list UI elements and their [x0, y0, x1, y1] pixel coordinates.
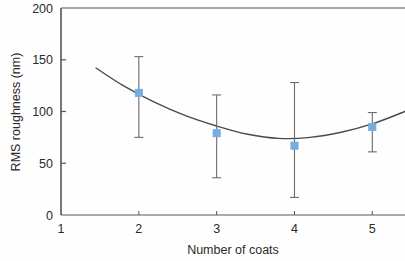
- y-tick-label: 100: [32, 105, 53, 119]
- x-axis-label: Number of coats: [187, 243, 279, 257]
- error-bars: [134, 57, 376, 198]
- fit-curve: [96, 68, 405, 139]
- chart-figure: 050100150200 12345 RMS roughness (nm) Nu…: [0, 0, 405, 261]
- x-tick-label: 1: [58, 222, 65, 236]
- data-point-marker: [291, 142, 298, 149]
- y-tick-label: 200: [32, 2, 53, 16]
- data-point-marker: [135, 89, 142, 96]
- x-tick-label: 5: [369, 222, 376, 236]
- y-axis-label: RMS roughness (nm): [9, 53, 23, 172]
- y-tick-label: 150: [32, 53, 53, 67]
- data-point-marker: [369, 123, 376, 130]
- x-tick-label: 4: [291, 222, 298, 236]
- plot-frame: [61, 8, 405, 215]
- chart-plot-area: 050100150200 12345 RMS roughness (nm) Nu…: [0, 0, 405, 261]
- data-point-marker: [213, 130, 220, 137]
- data-markers: [135, 89, 376, 149]
- x-tick-label: 2: [135, 222, 142, 236]
- x-tick-label: 3: [213, 222, 220, 236]
- y-tick-label: 0: [46, 209, 53, 223]
- y-tick-label: 50: [39, 157, 53, 171]
